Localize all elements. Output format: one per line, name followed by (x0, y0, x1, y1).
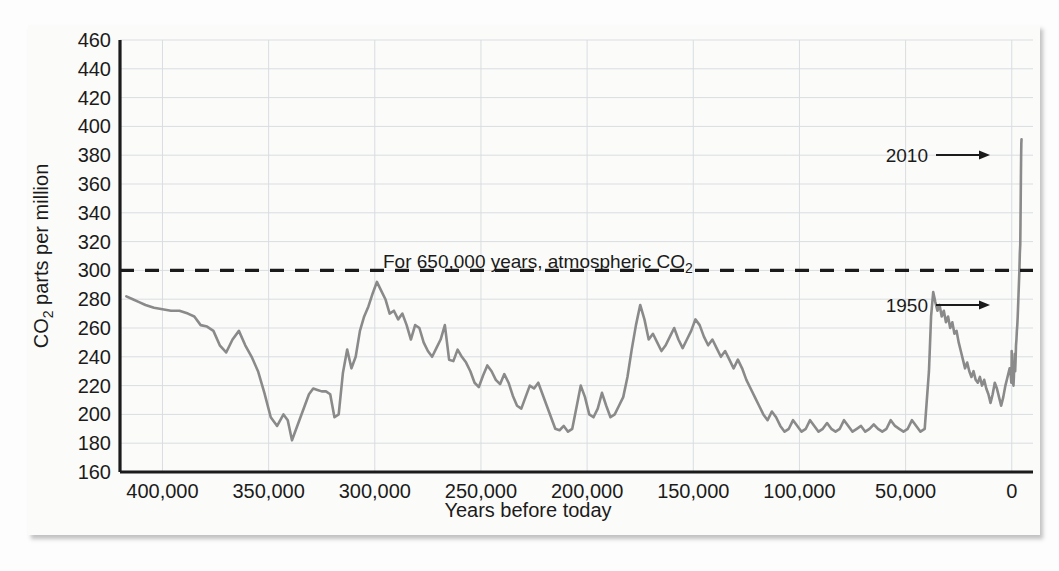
y-tick-label: 460 (78, 29, 111, 51)
y-tick-label: 320 (78, 231, 111, 253)
figure-root: 400,000350,000300,000250,000200,000150,0… (0, 0, 1059, 571)
y-tick-label: 300 (78, 259, 111, 281)
annotation-1950-arrow-head (979, 301, 990, 310)
annotation-1950-label: 1950 (886, 295, 928, 316)
series-line-group (126, 139, 1021, 440)
threshold-note-subscript: 2 (685, 260, 693, 276)
series-line (126, 139, 1021, 440)
svg-text:CO2 parts per million: CO2 parts per million (30, 164, 56, 349)
y-tick-label: 160 (78, 461, 111, 483)
y-axis-title-main: CO (30, 318, 52, 348)
y-tick-label: 200 (78, 403, 111, 425)
x-tick-label: 150,000 (657, 480, 729, 502)
x-tick-label: 0 (1006, 480, 1017, 502)
annotation-2010: 2010 (886, 145, 990, 166)
y-tick-label: 420 (78, 87, 111, 109)
x-tick-label: 300,000 (339, 480, 411, 502)
x-tick-label: 350,000 (232, 480, 304, 502)
annotation-2010-arrow-head (979, 151, 990, 160)
x-tick-label: 100,000 (763, 480, 835, 502)
y-tick-label: 220 (78, 375, 111, 397)
y-tick-label: 260 (78, 317, 111, 339)
y-tick-label: 400 (78, 115, 111, 137)
y-tick-label: 360 (78, 173, 111, 195)
annotation-1950: 1950 (886, 295, 990, 316)
svg-text:For 650,000 years, atmospheric: For 650,000 years, atmospheric CO2 (383, 251, 693, 276)
x-tick-label: 50,000 (875, 480, 936, 502)
y-tick-label: 440 (78, 58, 111, 80)
y-tick-label: 280 (78, 288, 111, 310)
y-tick-label: 180 (78, 432, 111, 454)
annotation-2010-label: 2010 (886, 145, 928, 166)
x-axis-title: Years before today (444, 499, 611, 521)
y-tick-label: 340 (78, 202, 111, 224)
y-axis-title-rest: parts per million (30, 164, 52, 311)
co2-line-chart: 400,000350,000300,000250,000200,000150,0… (0, 0, 1059, 571)
y-axis-tick-labels: 1601802002202402602803003203403603804004… (78, 29, 111, 483)
y-axis-title: CO2 parts per million (30, 164, 56, 349)
y-tick-label: 240 (78, 346, 111, 368)
y-tick-label: 380 (78, 144, 111, 166)
threshold-note: For 650,000 years, atmospheric CO2 (383, 251, 693, 276)
x-tick-label: 400,000 (126, 480, 198, 502)
y-axis-title-subscript: 2 (40, 310, 56, 318)
threshold-note-text: For 650,000 years, atmospheric CO (383, 251, 685, 272)
